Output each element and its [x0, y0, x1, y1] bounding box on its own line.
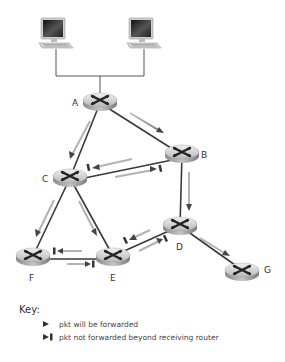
key-label-forwarded: pkt will be forwarded: [59, 320, 138, 329]
router-b: [165, 145, 199, 163]
key-item-forwarded: pkt will be forwarded: [19, 318, 138, 330]
arrow-blocked-icon: [53, 248, 82, 255]
router-c: [53, 169, 87, 187]
router-g: [225, 263, 259, 281]
node-label-c: C: [42, 175, 48, 184]
node-label-a: A: [72, 99, 78, 108]
node-label-e: E: [110, 274, 116, 283]
router-d: [163, 217, 197, 235]
arrow-blocked-icon: [19, 332, 55, 342]
node-label-g: G: [264, 266, 271, 275]
node-label-b: B: [201, 151, 207, 160]
host-computer-2: [127, 18, 161, 48]
arrow-icon: [79, 201, 97, 236]
arrow-icon: [130, 113, 164, 133]
key-title: Key:: [19, 304, 40, 315]
node-label-f: F: [29, 274, 34, 283]
arrow-blocked-icon: [67, 261, 95, 268]
host-computer-1: [39, 18, 73, 48]
arrow-icon: [200, 238, 230, 256]
router-f: [16, 248, 50, 266]
router-e: [96, 248, 130, 266]
host-lan: [56, 49, 144, 96]
key-item-blocked: pkt not forwarded beyond receiving route…: [19, 331, 219, 343]
router-a: [83, 93, 117, 111]
node-label-d: D: [176, 243, 183, 252]
key-label-blocked: pkt not forwarded beyond receiving route…: [59, 333, 219, 342]
arrow-icon: [19, 319, 55, 329]
arrow-icon: [186, 172, 192, 211]
